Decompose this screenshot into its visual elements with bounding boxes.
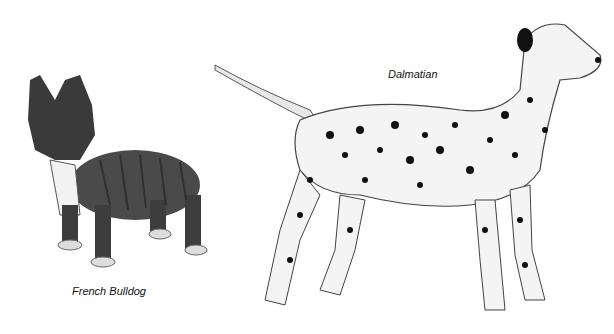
dog-drawings [0,0,614,334]
dalmatian-drawing [215,24,601,310]
french-bulldog-drawing [28,75,207,267]
dalmatian-label: Dalmatian [388,68,438,80]
dog-illustration: French Bulldog Dalmatian [0,0,614,334]
french-bulldog-label: French Bulldog [72,285,146,297]
